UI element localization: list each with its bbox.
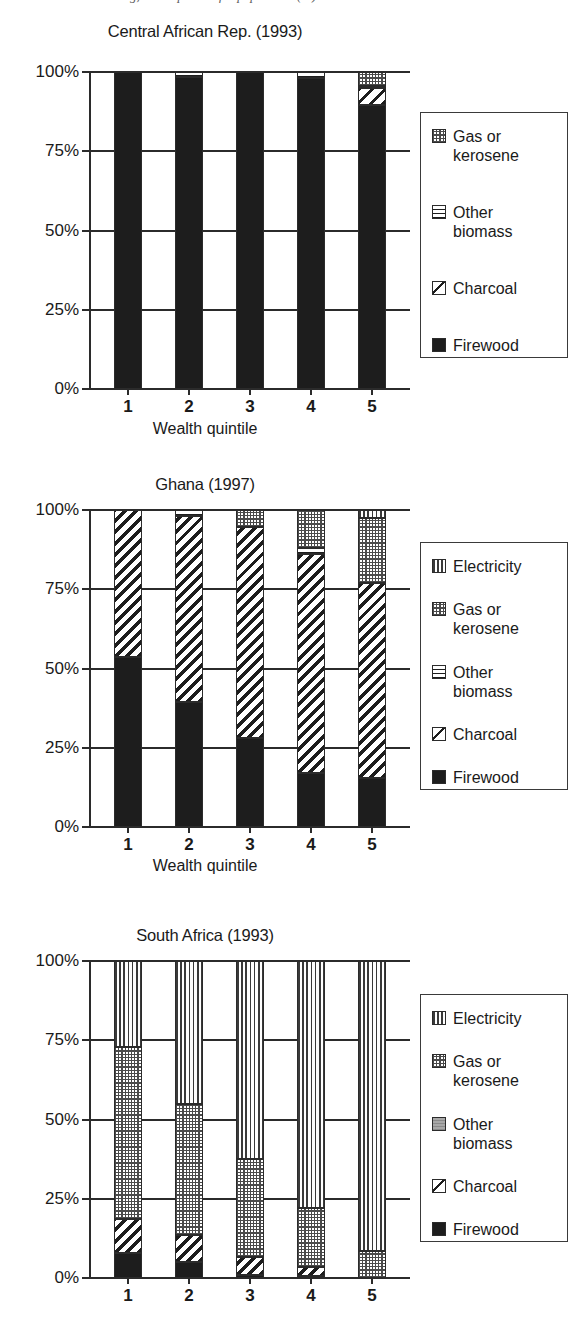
y-axis-tick: [82, 747, 90, 749]
bar-segment: [114, 510, 142, 657]
y-axis-tick-label: 25%: [0, 738, 79, 758]
y-axis-tick-label: 25%: [0, 1189, 79, 1209]
chart-panel-ghana: Ghana (1997) 100%75%50%25%0%12345 Wealth…: [0, 450, 575, 870]
bar-segment: [358, 778, 386, 827]
bar-segment: [297, 1276, 325, 1278]
y-axis-tick: [82, 1119, 90, 1121]
plot-area: 100%75%50%25%0%12345: [89, 72, 410, 389]
legend-label: Firewood: [453, 768, 519, 787]
stacked-bar: [114, 510, 142, 827]
bar-segment: [175, 72, 203, 77]
bar-segment: [114, 1219, 142, 1252]
bar-segment: [175, 77, 203, 389]
bar-segment: [358, 105, 386, 389]
stacked-bar: [114, 961, 142, 1278]
legend-label: Electricity: [453, 1009, 521, 1028]
bar-segment: [358, 583, 386, 778]
stacked-bar: [358, 72, 386, 389]
legend-label: Electricity: [453, 557, 521, 576]
x-axis-tick: [310, 826, 312, 833]
x-axis-tick-label: 1: [108, 397, 148, 417]
y-axis-tick: [82, 1198, 90, 1200]
stacked-bar: [175, 961, 203, 1278]
y-axis-tick-label: 50%: [0, 659, 79, 679]
stacked-bar: [236, 961, 264, 1278]
legend-label: Firewood: [453, 1220, 519, 1239]
legend-item-charcoal: Charcoal: [432, 279, 517, 298]
legend-item-gas-or-kerosene: Gas or kerosene: [432, 600, 519, 638]
x-axis-tick-label: 1: [108, 835, 148, 855]
stacked-bar: [358, 961, 386, 1278]
y-axis-tick: [82, 588, 90, 590]
legend-label: Other biomass: [453, 1115, 513, 1153]
bar-segment: [297, 72, 325, 78]
x-axis-tick: [127, 1277, 129, 1284]
legend-item-firewood: Firewood: [432, 336, 519, 355]
chart-title: South Africa (1993): [0, 926, 410, 945]
x-axis-tick: [371, 1277, 373, 1284]
legend-swatch-charcoal-icon: [432, 727, 446, 741]
x-axis-tick-label: 3: [230, 1286, 270, 1306]
bar-segment: [297, 510, 325, 548]
legend-swatch-firewood-icon: [432, 1222, 446, 1236]
bar-segment: [297, 961, 325, 1208]
legend-label: Gas or kerosene: [453, 1052, 519, 1090]
y-axis-tick-label: 100%: [0, 500, 79, 520]
legend-label: Gas or kerosene: [453, 600, 519, 638]
y-axis-tick: [82, 509, 90, 511]
x-axis-tick-label: 2: [169, 835, 209, 855]
bar-segment: [358, 88, 386, 105]
legend-label: Firewood: [453, 336, 519, 355]
legend-item-charcoal: Charcoal: [432, 1177, 517, 1196]
x-axis-tick-label: 4: [291, 835, 331, 855]
legend-swatch-gas-or-kerosene-icon: [432, 129, 446, 143]
x-axis-tick: [249, 826, 251, 833]
bar-segment: [175, 702, 203, 827]
stacked-bar: [297, 961, 325, 1278]
legend-swatch-electricity-icon: [432, 559, 446, 573]
stacked-bar: [114, 72, 142, 389]
x-axis-tick-label: 4: [291, 1286, 331, 1306]
chart-title: Ghana (1997): [0, 475, 410, 494]
plot-area: 100%75%50%25%0%12345: [89, 961, 410, 1278]
y-axis-tick-label: 75%: [0, 141, 79, 161]
chart-panel-south-africa: South Africa (1993) 100%75%50%25%0%12345…: [0, 870, 575, 1321]
chart-legend: Gas or keroseneOther biomassCharcoalFire…: [420, 112, 568, 358]
y-axis-tick: [82, 1039, 90, 1041]
stacked-bar: [175, 510, 203, 827]
legend-item-other-biomass: Other biomass: [432, 203, 513, 241]
bar-segment: [297, 773, 325, 827]
x-axis-tick-label: 3: [230, 397, 270, 417]
chart-panel-central-african-rep: Central African Rep. (1993) 100%75%50%25…: [0, 0, 575, 450]
bar-segment: [114, 1253, 142, 1278]
legend-item-electricity: Electricity: [432, 557, 521, 576]
chart-legend: ElectricityGas or keroseneOther biomassC…: [420, 542, 568, 790]
stacked-bar: [297, 72, 325, 389]
x-axis-tick-label: 4: [291, 397, 331, 417]
bar-segment: [175, 1104, 203, 1236]
y-axis-tick: [82, 71, 90, 73]
legend-swatch-other-biomass-icon: [432, 665, 446, 679]
bar-segment: [114, 72, 142, 389]
bar-segment: [297, 548, 325, 554]
y-axis-tick: [82, 150, 90, 152]
y-axis-tick-label: 25%: [0, 300, 79, 320]
legend-label: Charcoal: [453, 1177, 517, 1196]
legend-swatch-firewood-icon: [432, 770, 446, 784]
legend-label: Charcoal: [453, 279, 517, 298]
legend-swatch-gas-or-kerosene-icon: [432, 1054, 446, 1068]
stacked-bar: [175, 72, 203, 389]
bar-segment: [236, 738, 264, 827]
bar-segment: [236, 1275, 264, 1278]
y-axis-tick: [82, 230, 90, 232]
legend-swatch-gas-or-kerosene-icon: [432, 602, 446, 616]
bar-segment: [358, 510, 386, 518]
legend-item-firewood: Firewood: [432, 768, 519, 787]
bar-segment: [236, 961, 264, 1159]
bar-segment: [297, 1208, 325, 1267]
x-axis-tick-label: 2: [169, 1286, 209, 1306]
y-axis-tick-label: 0%: [0, 817, 79, 837]
bar-segment: [358, 1251, 386, 1278]
legend-label: Other biomass: [453, 663, 513, 701]
bar-segment: [297, 1267, 325, 1277]
